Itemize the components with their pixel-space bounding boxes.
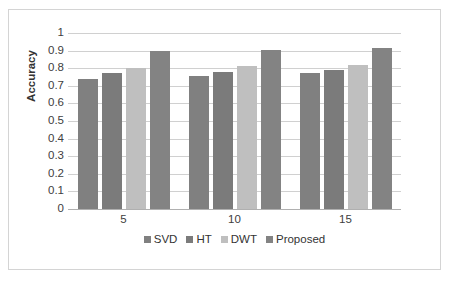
legend-item-dwt[interactable]: DWT (221, 234, 257, 246)
gridline (68, 51, 401, 52)
y-tick-label: 0.4 (31, 133, 64, 145)
legend-item-proposed[interactable]: Proposed (266, 234, 325, 246)
y-tick-label: 0 (31, 203, 64, 215)
y-tick-label: 0.8 (31, 62, 64, 74)
bar (237, 66, 257, 209)
legend-item-svd[interactable]: SVD (144, 234, 178, 246)
x-axis-tick-labels: 51015 (68, 213, 401, 231)
bar (213, 72, 233, 209)
bar (348, 65, 368, 209)
legend-label: SVD (154, 234, 178, 246)
legend-label: DWT (231, 234, 257, 246)
gridline (68, 33, 401, 34)
x-tick-label: 5 (120, 213, 126, 225)
y-tick-label: 0.7 (31, 80, 64, 92)
y-tick-label: 0.6 (31, 98, 64, 110)
bar (261, 50, 281, 209)
bar (372, 48, 392, 209)
y-tick-label: 0.3 (31, 150, 64, 162)
bar (102, 73, 122, 209)
bar (126, 68, 146, 209)
bar (78, 79, 98, 209)
y-tick-label: 0.5 (31, 115, 64, 127)
y-tick-label: 1 (31, 27, 64, 39)
y-tick-label: 0.9 (31, 45, 64, 57)
chart-legend: SVDHTDWTProposed (9, 234, 451, 246)
y-tick-label: 0.2 (31, 168, 64, 180)
legend-item-ht[interactable]: HT (186, 234, 211, 246)
y-axis-tick-labels: 10.90.80.70.60.50.40.30.20.10 (31, 33, 64, 209)
bar (324, 70, 344, 209)
bar (300, 73, 320, 209)
bar (150, 51, 170, 209)
legend-label: HT (196, 234, 211, 246)
plot-area (68, 33, 401, 209)
bar (189, 76, 209, 209)
legend-swatch-icon (144, 236, 151, 243)
legend-swatch-icon (266, 236, 273, 243)
x-tick-label: 10 (228, 213, 241, 225)
gridline (68, 209, 401, 210)
x-tick-label: 15 (339, 213, 352, 225)
legend-label: Proposed (276, 234, 325, 246)
legend-swatch-icon (186, 236, 193, 243)
legend-swatch-icon (221, 236, 228, 243)
y-tick-label: 0.1 (31, 186, 64, 198)
chart-frame: Accuracy 10.90.80.70.60.50.40.30.20.10 5… (8, 9, 441, 270)
